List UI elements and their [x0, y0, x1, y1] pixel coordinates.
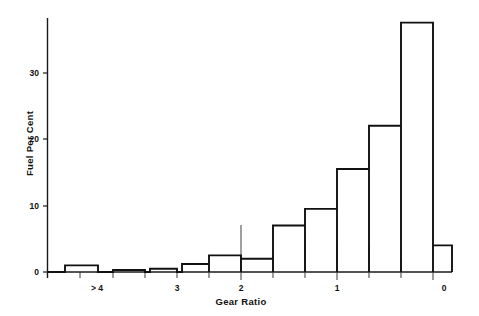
histogram-outline: [48, 23, 452, 272]
y-tick-label-10: 10: [30, 201, 40, 211]
fuel-per-cent-vs-gear-ratio-chart: Fuel Per Cent 30 20 10 0: [0, 0, 479, 316]
y-tick-label-0: 0: [34, 267, 39, 277]
y-axis-title: Fuel Per Cent: [24, 111, 35, 176]
x-tick-label-1: 1: [335, 283, 340, 293]
chart-canvas: 30 20 10 0: [0, 0, 479, 316]
x-axis-ticks: [80, 272, 433, 280]
x-tick-label-3: 3: [175, 283, 180, 293]
y-axis-title-container: Fuel Per Cent: [12, 96, 26, 176]
x-axis-title: Gear Ratio: [215, 296, 266, 307]
x-tick-label-2: 2: [239, 283, 244, 293]
bin-separators: [241, 225, 401, 272]
x-tick-label-0: 0: [442, 283, 447, 293]
x-tick-label-gt4: > 4: [91, 283, 103, 293]
y-tick-label-30: 30: [30, 68, 40, 78]
